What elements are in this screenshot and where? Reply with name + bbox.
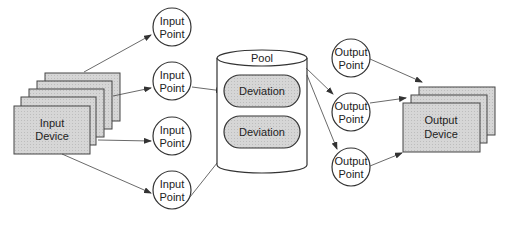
deviation-2-label: Deviation — [239, 126, 285, 138]
svg-text:Point: Point — [338, 168, 363, 180]
svg-text:Point: Point — [338, 113, 363, 125]
svg-text:Point: Point — [159, 191, 184, 203]
svg-text:Input: Input — [160, 178, 184, 190]
flow-diagram: Input Device Input Point Input Point Inp… — [0, 0, 508, 225]
svg-text:Output: Output — [334, 155, 367, 167]
svg-text:Output: Output — [334, 100, 367, 112]
output-device-label-1: Output — [424, 114, 457, 126]
output-point-1: Output Point — [332, 39, 370, 77]
input-device-label-2: Device — [35, 130, 69, 142]
svg-text:Point: Point — [338, 59, 363, 71]
output-point-2: Output Point — [332, 93, 370, 131]
pool-label: Pool — [251, 52, 273, 64]
output-point-3: Output Point — [332, 148, 370, 186]
svg-text:Input: Input — [160, 124, 184, 136]
output-device-stack: Output Device — [403, 87, 495, 152]
svg-text:Point: Point — [159, 137, 184, 149]
svg-text:Input: Input — [160, 15, 184, 27]
input-point-3: Input Point — [153, 117, 191, 155]
svg-text:Point: Point — [159, 28, 184, 40]
input-device-label-1: Input — [40, 117, 64, 129]
input-point-4: Input Point — [153, 171, 191, 209]
deviation-1-label: Deviation — [239, 85, 285, 97]
input-point-2: Input Point — [153, 62, 191, 100]
input-device-stack: Input Device — [14, 73, 120, 154]
svg-text:Point: Point — [159, 82, 184, 94]
pool-cylinder: Pool Deviation Deviation — [217, 50, 307, 173]
svg-text:Output: Output — [334, 46, 367, 58]
input-point-1: Input Point — [153, 8, 191, 46]
svg-text:Input: Input — [160, 69, 184, 81]
output-device-label-2: Device — [424, 128, 458, 140]
